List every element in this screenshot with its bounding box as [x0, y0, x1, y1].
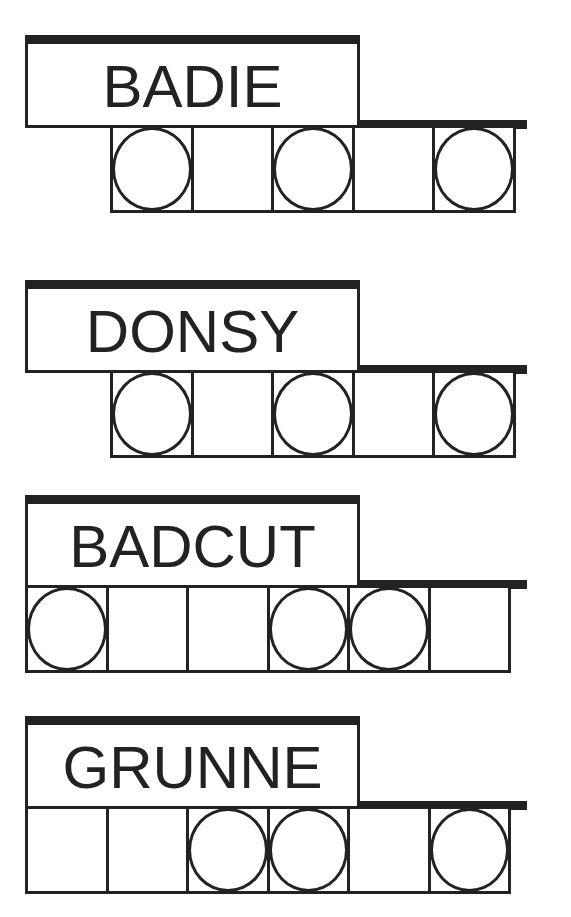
answer-square[interactable]	[110, 370, 194, 458]
answer-square[interactable]	[186, 585, 270, 673]
answer-squares	[110, 370, 516, 458]
circle-marker-icon	[434, 372, 514, 456]
circle-marker-icon	[434, 127, 514, 211]
answer-square[interactable]	[191, 370, 275, 458]
scrambled-word: BADCUT	[69, 517, 316, 577]
scrambled-word: DONSY	[86, 302, 299, 362]
circle-marker-icon	[269, 808, 349, 892]
circle-marker-icon	[269, 587, 349, 671]
circle-marker-icon	[273, 127, 353, 211]
answer-square[interactable]	[432, 370, 516, 458]
answer-square[interactable]	[271, 125, 355, 213]
answer-square[interactable]	[347, 806, 431, 894]
answer-square[interactable]	[267, 806, 351, 894]
circle-marker-icon	[430, 808, 510, 892]
answer-squares	[25, 585, 511, 673]
answer-square[interactable]	[191, 125, 275, 213]
answer-square[interactable]	[352, 125, 436, 213]
scrambled-word-box: BADCUT	[25, 495, 360, 588]
answer-square[interactable]	[428, 585, 512, 673]
circle-marker-icon	[188, 808, 268, 892]
answer-square[interactable]	[106, 585, 190, 673]
scrambled-word: GRUNNE	[62, 738, 322, 798]
circle-marker-icon	[112, 127, 192, 211]
answer-square[interactable]	[271, 370, 355, 458]
answer-squares	[25, 806, 511, 894]
answer-squares	[110, 125, 516, 213]
answer-square[interactable]	[25, 806, 109, 894]
answer-square[interactable]	[25, 585, 109, 673]
scrambled-word-box: DONSY	[25, 280, 360, 373]
answer-square[interactable]	[432, 125, 516, 213]
scrambled-word: BADIE	[102, 57, 282, 117]
circle-marker-icon	[112, 372, 192, 456]
answer-square[interactable]	[267, 585, 351, 673]
answer-square[interactable]	[352, 370, 436, 458]
answer-square[interactable]	[106, 806, 190, 894]
scrambled-word-box: BADIE	[25, 35, 360, 128]
circle-marker-icon	[273, 372, 353, 456]
answer-square[interactable]	[428, 806, 512, 894]
answer-square[interactable]	[110, 125, 194, 213]
circle-marker-icon	[349, 587, 429, 671]
scrambled-word-box: GRUNNE	[25, 716, 360, 809]
answer-square[interactable]	[186, 806, 270, 894]
answer-square[interactable]	[347, 585, 431, 673]
circle-marker-icon	[27, 587, 107, 671]
